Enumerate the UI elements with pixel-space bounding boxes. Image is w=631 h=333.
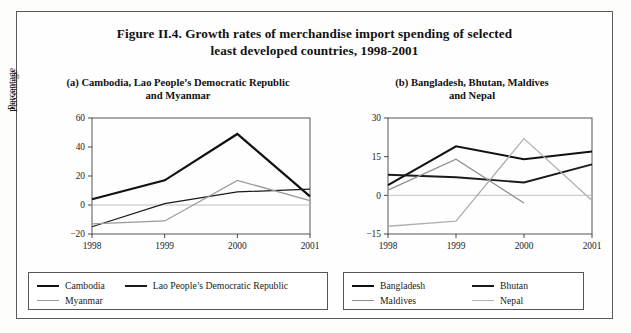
legend-label-bangladesh: Bangladesh [380, 280, 425, 291]
panel-b: (b) Bangladesh, Bhutan, Maldives and Nep… [330, 76, 614, 268]
legend-label-myanmar: Myanmar [65, 295, 103, 306]
y-tick-label: −15 [366, 229, 381, 239]
legend-label-lao: Lao People’s Democratic Republic [153, 280, 288, 291]
panel-a: (a) Cambodia, Lao People’s Democratic Re… [28, 76, 328, 268]
legend-label-bhutan: Bhutan [500, 280, 528, 291]
legend-item-bhutan: Bhutan [472, 280, 528, 291]
legend-row: Myanmar [37, 293, 319, 308]
y-tick-label: −20 [70, 229, 85, 239]
series-line-lao-people-s-democratic-republic [92, 189, 310, 227]
legend-swatch-bhutan [472, 285, 494, 287]
series-line-nepal [388, 139, 592, 227]
panel-a-plot-area: −2002040601998199920002001 [28, 108, 328, 268]
legend-row: Cambodia Lao People’s Democratic Republi… [37, 278, 319, 293]
panel-a-subtitle-line2: and Myanmar [28, 89, 328, 102]
panel-b-plot-area: −15015301998199920002001 [330, 108, 614, 268]
panel-a-subtitle-line1: (a) Cambodia, Lao People’s Democratic Re… [66, 77, 289, 88]
legend-row: Bangladesh Bhutan [352, 278, 575, 293]
panel-b-legend: Bangladesh Bhutan Maldives Nepal [343, 272, 584, 310]
x-tick-label: 1999 [155, 241, 174, 251]
legend-swatch-myanmar [37, 300, 59, 301]
series-line-myanmar [92, 180, 310, 224]
y-tick-label: 60 [76, 113, 86, 123]
panel-a-subtitle: (a) Cambodia, Lao People’s Democratic Re… [28, 76, 328, 102]
panel-b-subtitle: (b) Bangladesh, Bhutan, Maldives and Nep… [330, 76, 614, 102]
legend-item-bangladesh: Bangladesh [352, 280, 472, 291]
legend-label-cambodia: Cambodia [65, 280, 105, 291]
legend-swatch-lao [125, 285, 147, 287]
series-line-cambodia [92, 134, 310, 199]
figure-page: Figure II.4. Growth rates of merchandise… [0, 0, 631, 333]
figure-title-line2: least developed countries, 1998-2001 [16, 43, 613, 60]
x-tick-label: 2000 [515, 241, 534, 251]
legend-swatch-bangladesh [352, 285, 374, 287]
legend-item-myanmar: Myanmar [37, 295, 103, 306]
legend-swatch-nepal [472, 300, 494, 301]
x-tick-label: 2001 [583, 241, 602, 251]
y-tick-label: 20 [76, 171, 86, 181]
panel-b-subtitle-line1: (b) Bangladesh, Bhutan, Maldives [395, 77, 548, 88]
y-tick-label: 0 [80, 200, 85, 210]
legend-swatch-cambodia [37, 285, 59, 287]
y-tick-label: 15 [372, 152, 382, 162]
chart-a-svg: −2002040601998199920002001 [28, 108, 328, 268]
figure-title: Figure II.4. Growth rates of merchandise… [16, 26, 613, 59]
y-tick-label: 30 [372, 113, 382, 123]
chart-b-svg: −15015301998199920002001 [330, 108, 614, 268]
panel-b-subtitle-line2: and Nepal [330, 89, 614, 102]
legend-label-nepal: Nepal [500, 295, 523, 306]
legend-row: Maldives Nepal [352, 293, 575, 308]
legend-swatch-maldives [352, 300, 374, 301]
legend-label-maldives: Maldives [380, 295, 416, 306]
panel-a-legend: Cambodia Lao People’s Democratic Republi… [28, 272, 328, 310]
y-tick-label: 40 [76, 142, 86, 152]
legend-item-lao: Lao People’s Democratic Republic [125, 280, 288, 291]
legend-item-maldives: Maldives [352, 295, 472, 306]
x-tick-label: 2000 [228, 241, 247, 251]
figure-title-line1: Figure II.4. Growth rates of merchandise… [117, 26, 512, 41]
legend-item-nepal: Nepal [472, 295, 523, 306]
x-tick-label: 1998 [379, 241, 398, 251]
y-tick-label: 0 [376, 191, 381, 201]
legend-item-cambodia: Cambodia [37, 280, 105, 291]
x-tick-label: 1999 [447, 241, 466, 251]
x-tick-label: 2001 [301, 241, 320, 251]
chart-b-ylabel: Percentage [6, 68, 17, 110]
x-tick-label: 1998 [83, 241, 102, 251]
